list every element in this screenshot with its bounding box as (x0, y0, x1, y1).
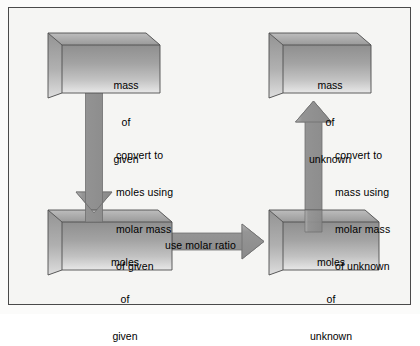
box-mass-of-unknown (269, 33, 371, 98)
arrowtail-up-overlay (305, 210, 322, 232)
box-line-3: unknown (290, 330, 372, 342)
box-mass-of-given (48, 33, 160, 98)
box-moles-of-unknown (269, 210, 379, 275)
arrowhead-right-overlay (242, 224, 264, 259)
box-line-3: given (85, 330, 165, 342)
arrowhead-up-overlay (296, 101, 332, 122)
box-moles-of-given (48, 210, 172, 275)
